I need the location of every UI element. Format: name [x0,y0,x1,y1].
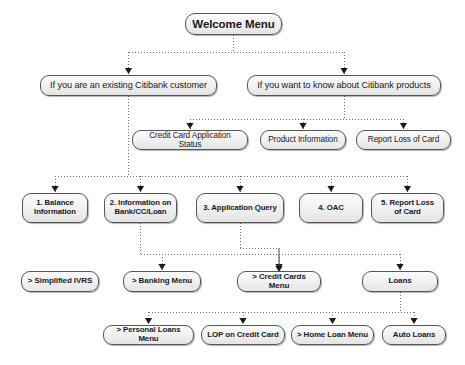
node-label: LOP on Credit Card [207,331,278,340]
node-label: Credit Card Application Status [137,131,243,149]
node-homeloan[interactable]: > Home Loan Menu [291,325,374,345]
node-opt2[interactable]: 2. Information on Bank/CC/Loan [104,193,177,223]
node-label: Report Loss of Card [368,135,439,144]
node-ccappstatus[interactable]: Credit Card Application Status [132,130,248,150]
node-label: If you want to know about Citibank produ… [257,80,430,90]
node-label: 1. Balance Information [34,199,76,216]
node-existing[interactable]: If you are an existing Citibank customer [40,75,217,96]
node-opt3[interactable]: 3. Application Query [196,193,284,223]
node-label: Welcome Menu [192,18,274,31]
node-label: 4. OAC [318,204,343,213]
node-label: 2. Information on Bank/CC/Loan [110,199,172,216]
node-label: If you are an existing Citibank customer [50,80,207,90]
node-label: > Home Loan Menu [297,331,368,340]
flowchart-canvas: Welcome MenuIf you are an existing Citib… [0,0,465,365]
node-products[interactable]: If you want to know about Citibank produ… [247,75,441,96]
node-ivrs[interactable]: > Simplified IVRS [21,271,99,292]
node-label: Loans [388,277,411,286]
node-personal[interactable]: > Personal Loans Menu [103,325,194,345]
node-lop[interactable]: LOP on Credit Card [201,325,285,345]
node-label: Product Information [268,135,338,144]
node-opt5[interactable]: 5. Report Loss of Card [371,193,444,223]
node-label: > Credit Cards Menu [242,273,316,291]
node-prodinfo[interactable]: Product Information [260,130,346,150]
connector-layer [0,0,465,365]
node-label: 3. Application Query [203,204,277,213]
node-label: > Banking Menu [132,277,192,286]
node-opt4[interactable]: 4. OAC [299,193,363,223]
node-label: > Personal Loans Menu [108,326,189,344]
node-autoloans[interactable]: Auto Loans [382,325,446,345]
node-label: Auto Loans [393,331,435,340]
node-label: 5. Report Loss of Card [381,199,434,216]
node-banking[interactable]: > Banking Menu [123,271,201,292]
node-opt1[interactable]: 1. Balance Information [22,193,88,223]
node-reportloss[interactable]: Report Loss of Card [356,130,451,150]
node-label: > Simplified IVRS [28,277,92,286]
node-creditcards[interactable]: > Credit Cards Menu [237,271,321,292]
node-loans[interactable]: Loans [362,271,438,292]
node-root[interactable]: Welcome Menu [185,13,282,35]
